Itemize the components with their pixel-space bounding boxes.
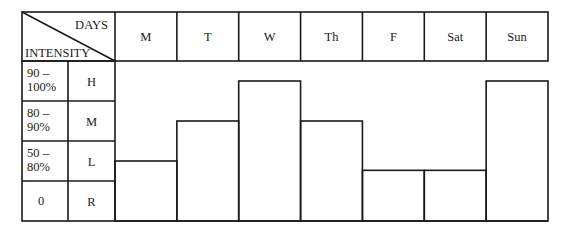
day-header-th: Th — [325, 30, 340, 44]
intensity-range-label: 90% — [27, 120, 50, 134]
intensity-chart: DAYS INTENSITY MTWThFSatSun 90 –100%H80 … — [0, 0, 568, 232]
bar-w — [239, 81, 301, 221]
bar-m — [115, 161, 177, 221]
bar-t — [177, 121, 239, 221]
intensity-range-label: 0 — [38, 194, 44, 208]
bar-f — [362, 170, 424, 221]
bar-th — [301, 121, 363, 221]
day-header-m: M — [140, 30, 151, 44]
intensity-code-h: H — [87, 75, 96, 89]
bar-sat — [424, 170, 486, 221]
intensity-code-r: R — [87, 195, 96, 209]
header-intensity-label: INTENSITY — [25, 46, 90, 60]
intensity-range-label: 100% — [27, 80, 56, 94]
intensity-code-l: L — [88, 155, 96, 169]
day-header-f: F — [390, 30, 397, 44]
intensity-code-m: M — [86, 115, 97, 129]
day-header-t: T — [204, 30, 212, 44]
intensity-range-label: 50 – — [27, 146, 50, 160]
day-header-sun: Sun — [507, 30, 527, 44]
intensity-range-label: 80% — [27, 160, 50, 174]
bar-sun — [486, 81, 548, 221]
intensity-range-label: 90 – — [27, 66, 50, 80]
day-header-w: W — [264, 30, 276, 44]
intensity-range-label: 80 – — [27, 106, 50, 120]
header-days-label: DAYS — [75, 18, 108, 32]
day-header-sat: Sat — [447, 30, 464, 44]
